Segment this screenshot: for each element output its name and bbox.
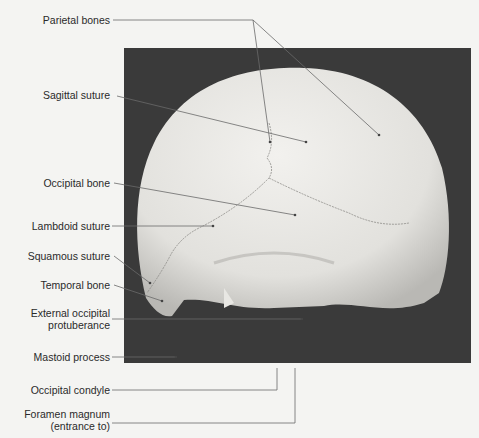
label-foramen-magnum-line2: (entrance to) (50, 420, 110, 432)
label-external-occipital-line2: protuberance (48, 319, 110, 331)
label-occipital-bone: Occipital bone (43, 177, 110, 189)
label-external-occipital-line1: External occipital (31, 307, 110, 319)
leader-lines (0, 0, 479, 438)
label-temporal-bone: Temporal bone (41, 279, 110, 291)
label-lambdoid-suture: Lambdoid suture (32, 220, 110, 232)
label-mastoid-process: Mastoid process (34, 351, 110, 363)
label-occipital-condyle: Occipital condyle (31, 384, 110, 396)
label-foramen-magnum-line1: Foramen magnum (24, 408, 110, 420)
label-parietal-bones: Parietal bones (43, 14, 110, 26)
label-sagittal-suture: Sagittal suture (43, 89, 110, 101)
label-squamous-suture: Squamous suture (28, 250, 110, 262)
